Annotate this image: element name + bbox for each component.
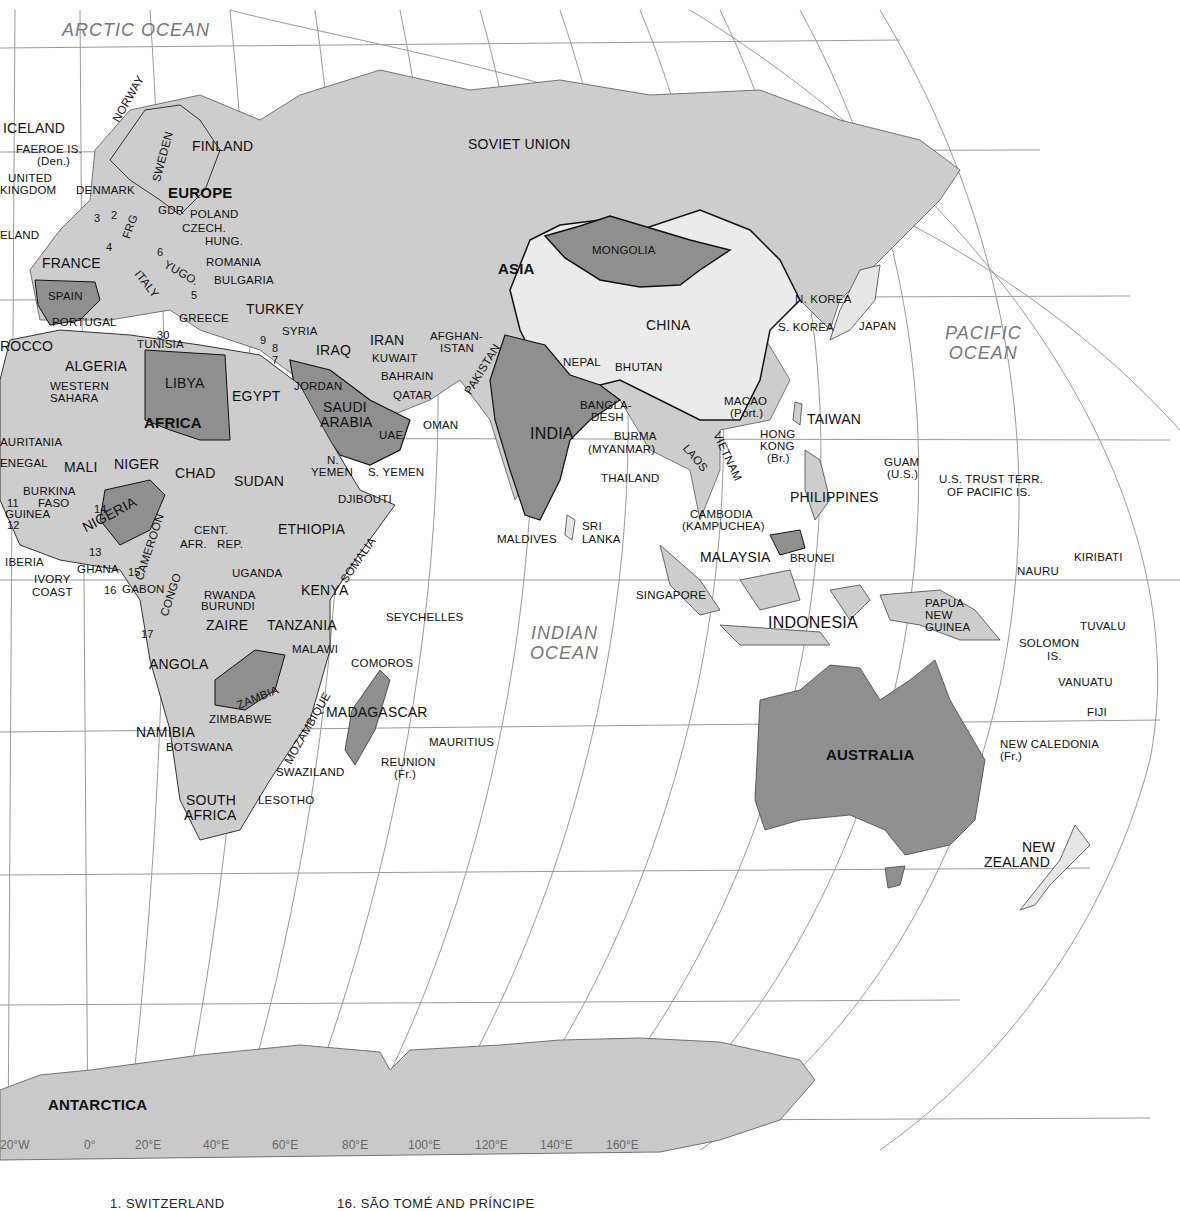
country-label-faeroe-den: (Den.)	[37, 155, 70, 167]
country-label-papua: PAPUA	[925, 597, 964, 609]
longitude-tick: 100°E	[408, 1138, 441, 1152]
longitude-tick: 160°E	[606, 1138, 639, 1152]
number-label-3: 3	[94, 211, 100, 225]
country-label-solomon: SOLOMON	[1019, 637, 1079, 649]
country-label-turkey: TURKEY	[246, 302, 304, 317]
ocean-label-pacific: PACIFICOCEAN	[945, 323, 1022, 363]
country-label-united: UNITED	[8, 172, 52, 184]
country-label-djibouti: DJIBOUTI	[338, 493, 392, 505]
country-label-mauritania: AURITANIA	[0, 436, 62, 448]
country-label-greece: GREECE	[179, 312, 229, 324]
continent-label-antarctica: ANTARCTICA	[48, 1098, 147, 1112]
country-label-mongolia: MONGOLIA	[592, 244, 656, 256]
country-label-spain: SPAIN	[48, 290, 83, 302]
country-label-kampuchea: (KAMPUCHEA)	[682, 520, 765, 532]
country-label-s-korea: S. KOREA	[778, 321, 834, 333]
number-label-4: 4	[106, 240, 112, 254]
country-label-uganda: UGANDA	[232, 567, 282, 579]
country-label-istan: ISTAN	[440, 342, 474, 354]
number-label-14: 14	[94, 502, 107, 516]
country-label-pacific-is: OF PACIFIC IS.	[947, 486, 1031, 498]
country-label-malaysia: MALAYSIA	[700, 550, 771, 565]
longitude-tick: 60°E	[272, 1138, 298, 1152]
country-label-romania: ROMANIA	[206, 256, 261, 268]
country-label-myanmar: (MYANMAR)	[588, 443, 655, 455]
country-label-burundi: BURUNDI	[201, 600, 255, 612]
country-label-gdr: GDR	[158, 204, 184, 216]
legend-item-16: 16. SÃO TOMÉ AND PRÍNCIPE	[337, 1196, 535, 1211]
country-label-arabia: ARABIA	[320, 415, 373, 430]
country-label-lesotho: LESOTHO	[258, 794, 314, 806]
country-label-desh: DESH	[591, 411, 624, 423]
country-label-singapore: SINGAPORE	[636, 589, 706, 601]
pacific-line-2: OCEAN	[945, 343, 1022, 363]
number-label-5: 5	[191, 288, 197, 302]
country-label-burkina: BURKINA	[23, 485, 76, 497]
country-label-bulgaria: BULGARIA	[214, 274, 274, 286]
country-label-zaire: ZAIRE	[206, 618, 248, 633]
country-label-kenya: KENYA	[301, 583, 348, 598]
country-label-egypt: EGYPT	[232, 389, 280, 404]
country-label-macao-port: (Port.)	[730, 407, 763, 419]
country-label-botswana: BOTSWANA	[166, 741, 233, 753]
country-label-afr: AFR.	[180, 538, 207, 550]
country-label-new-caledonia: NEW CALEDONIA	[1000, 738, 1099, 750]
country-label-hung: HUNG.	[205, 235, 243, 247]
country-label-thailand: THAILAND	[601, 472, 659, 484]
country-label-japan: JAPAN	[859, 320, 896, 332]
country-label-kiribati: KIRIBATI	[1074, 551, 1123, 563]
country-label-nz-new: NEW	[1022, 840, 1055, 855]
country-label-us-trust: U.S. TRUST TERR.	[939, 473, 1043, 485]
number-label-2: 2	[111, 208, 117, 222]
country-label-portugal: PORTUGAL	[52, 316, 117, 328]
country-label-vanuatu: VANUATU	[1058, 676, 1113, 688]
country-label-sahara: SAHARA	[50, 392, 99, 404]
country-label-algeria: ALGERIA	[65, 359, 127, 374]
ocean-label-arctic: ARCTIC OCEAN	[62, 20, 210, 40]
country-label-indonesia: INDONESIA	[768, 614, 858, 631]
longitude-tick: 40°E	[203, 1138, 229, 1152]
longitude-tick: 20°W	[0, 1138, 29, 1152]
number-label-30: 30	[157, 328, 170, 342]
country-label-bangla: BANGLA-	[580, 399, 632, 411]
continent-label-africa: AFRICA	[144, 416, 202, 430]
country-label-reunion-fr: (Fr.)	[394, 768, 416, 780]
country-label-brunei: BRUNEI	[790, 552, 835, 564]
country-label-gabon: GABON	[122, 583, 165, 595]
country-label-saudi: SAUDI	[323, 400, 367, 415]
country-label-cent: CENT.	[194, 524, 228, 536]
country-label-sri: SRI	[582, 520, 602, 532]
number-label-16: 16	[104, 583, 117, 597]
country-label-faeroe: FAEROE IS.	[16, 143, 82, 155]
philippines-region	[805, 450, 830, 520]
country-label-burma: BURMA	[614, 430, 657, 442]
legend-item-1: 1. SWITZERLAND	[110, 1196, 225, 1211]
number-label-17: 17	[141, 627, 154, 641]
country-label-nz-zealand: ZEALAND	[984, 855, 1050, 870]
number-label-7: 7	[272, 353, 278, 367]
country-label-kingdom: KINGDOM	[0, 184, 56, 196]
country-label-sudan: SUDAN	[234, 474, 284, 489]
longitude-tick: 80°E	[342, 1138, 368, 1152]
country-label-guam: GUAM	[884, 456, 919, 468]
country-label-rep: REP.	[217, 538, 243, 550]
country-label-western: WESTERN	[50, 380, 109, 392]
ocean-label-indian: INDIANOCEAN	[530, 623, 599, 663]
country-label-taiwan: TAIWAN	[807, 412, 861, 427]
country-label-angola: ANGOLA	[149, 657, 209, 672]
pacific-line-1: PACIFIC	[945, 323, 1022, 343]
country-label-madagascar: MADAGASCAR	[326, 705, 428, 720]
country-label-solomon-is: IS.	[1047, 650, 1062, 662]
country-label-poland: POLAND	[190, 208, 239, 220]
country-label-liberia: IBERIA	[5, 556, 44, 568]
sri-lanka-region	[565, 515, 575, 540]
country-label-namibia: NAMIBIA	[136, 725, 195, 740]
number-label-15: 15	[128, 565, 141, 579]
country-label-soviet-union: SOVIET UNION	[468, 137, 571, 152]
country-label-kuwait: KUWAIT	[372, 352, 418, 364]
country-label-oman: OMAN	[423, 419, 458, 431]
country-label-maldives: MALDIVES	[497, 533, 557, 545]
country-label-qatar: QATAR	[393, 389, 432, 401]
country-label-senegal: ENEGAL	[0, 457, 48, 469]
country-label-bhutan: BHUTAN	[615, 361, 663, 373]
